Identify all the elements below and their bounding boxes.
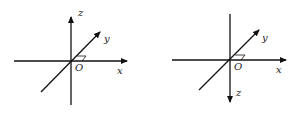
origin-label: O [234,61,242,72]
y-label: y [103,33,110,44]
diagram-right: y x O z [172,14,286,102]
coordinate-diagrams: z y x O y x O z [0,0,299,116]
x-label: x [276,64,282,75]
x-label: x [117,65,123,76]
z-label: z [235,87,242,98]
origin-label: O [75,62,83,73]
y-label: y [261,32,268,43]
z-label: z [77,7,84,18]
right-angle-mark [235,55,245,60]
right-angle-mark [76,56,86,61]
diagram-left: z y x O [14,7,127,105]
